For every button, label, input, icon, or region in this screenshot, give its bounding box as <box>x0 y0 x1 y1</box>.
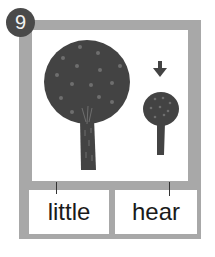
label-little[interactable]: little <box>29 190 109 234</box>
big-tree-icon <box>44 40 130 170</box>
pointer-line-right <box>169 182 170 196</box>
number-badge: 9 <box>6 8 35 37</box>
small-tree-icon <box>143 92 179 155</box>
pointer-line-left <box>56 182 57 194</box>
label-hear[interactable]: hear <box>115 190 197 234</box>
arrow-down-icon <box>153 61 167 77</box>
